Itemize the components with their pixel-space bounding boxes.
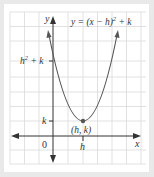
k-tick-label: k [42,115,47,126]
vertex-label: (h, k) [71,125,91,136]
grid [10,12,146,164]
curve-right-arrow-icon [115,30,120,38]
vertex-point [81,119,85,123]
y-axis-up-arrow-icon [50,16,56,24]
h2k-tick-label: h2 + k [20,54,44,66]
origin-label: 0 [42,139,47,150]
h-tick-label: h [80,141,85,152]
y-axis-label: y [44,13,50,24]
parabola-graph: y x 0 y = (x − h)2 + k h2 + k k h (h, k) [0,0,154,177]
equation-label: y = (x − h)2 + k [70,15,132,28]
curve-left-arrow-icon [47,30,52,38]
x-axis-left-arrow-icon [11,133,19,139]
x-axis-label: x [134,138,140,149]
y-axis-down-arrow-icon [50,155,56,163]
